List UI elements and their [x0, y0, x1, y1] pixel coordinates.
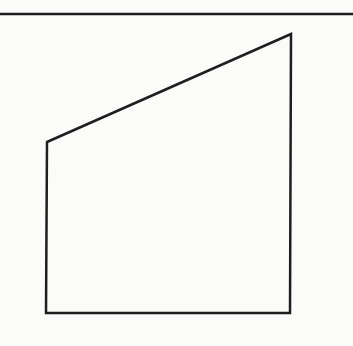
figure-svg [0, 0, 353, 346]
trapezoid-shape [46, 34, 291, 313]
diagram-canvas [0, 0, 353, 346]
